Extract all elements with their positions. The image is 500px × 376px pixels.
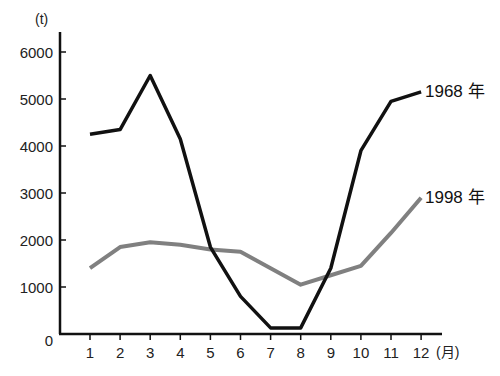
x-unit-label: (月) <box>436 344 459 360</box>
x-tick-label: 4 <box>176 344 184 361</box>
series-line-1998 <box>90 198 421 285</box>
x-ticks: 123456789101112 <box>86 334 430 361</box>
line-chart: 0100020003000400050006000 12345678910111… <box>0 0 500 376</box>
series-label-1968: 1968 年 <box>425 82 485 101</box>
x-tick-label: 10 <box>353 344 370 361</box>
series-line-1968 <box>90 76 421 328</box>
x-tick-label: 11 <box>383 344 399 361</box>
y-tick-label: 0 <box>45 332 53 349</box>
x-tick-label: 8 <box>297 344 305 361</box>
x-tick-label: 1 <box>86 344 94 361</box>
y-unit-label: (t) <box>35 11 48 27</box>
y-tick-label: 5000 <box>20 91 53 108</box>
x-tick-label: 12 <box>413 344 430 361</box>
x-tick-label: 6 <box>236 344 244 361</box>
y-tick-label: 3000 <box>20 185 53 202</box>
series-label-1998: 1998 年 <box>425 188 485 207</box>
x-tick-label: 7 <box>266 344 274 361</box>
y-tick-label: 4000 <box>20 138 53 155</box>
x-tick-label: 5 <box>206 344 214 361</box>
y-tick-label: 6000 <box>20 44 53 61</box>
y-tick-label: 1000 <box>20 279 53 296</box>
x-tick-label: 2 <box>116 344 124 361</box>
y-tick-label: 2000 <box>20 232 53 249</box>
x-tick-label: 3 <box>146 344 154 361</box>
x-tick-label: 9 <box>327 344 335 361</box>
